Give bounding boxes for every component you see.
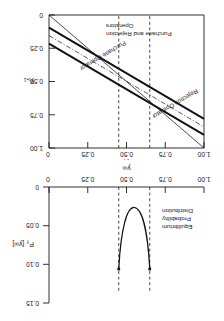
equilibrium-distribution-curve bbox=[119, 207, 150, 268]
top-x-ticks bbox=[49, 187, 204, 193]
top-y-tick-label: 0.10 bbox=[26, 261, 39, 268]
top-y-axis-title-main: P bbox=[29, 241, 34, 248]
top-x-tick-label: 1.00 bbox=[197, 176, 210, 183]
top-y-tick-label: 0.05 bbox=[26, 222, 39, 229]
bottom-x-tick-label: 0.75 bbox=[159, 151, 172, 158]
top-x-tick-label: 0.50 bbox=[120, 176, 133, 183]
bottom-x-tick-label: 1.00 bbox=[197, 151, 210, 158]
bottom-x-tick-label: 0.25 bbox=[81, 151, 94, 158]
top-annotation: Equilibrium Probability Distribution bbox=[161, 208, 193, 231]
panel-purchase-and-rejection-operators: Rejection Operator Purchase Operator 1.0… bbox=[0, 0, 224, 160]
bottom-x-tick-label: 0.50 bbox=[120, 151, 133, 158]
bottom-annotation-line-2: Operators bbox=[106, 23, 134, 30]
top-y-axis-title-tail: [y∞] bbox=[12, 240, 26, 248]
top-x-tick-label: 0.75 bbox=[159, 176, 172, 183]
bottom-x-tick-label: 0 bbox=[46, 151, 50, 158]
top-x-tick-label: 0 bbox=[46, 176, 50, 183]
series-rejection-operator bbox=[49, 44, 204, 135]
bottom-y-tick-label: 0 bbox=[39, 12, 43, 19]
bottom-x-ticks bbox=[49, 142, 204, 148]
svg-text:PY [y∞]: PY [y∞] bbox=[12, 239, 34, 248]
bottom-y-ticks bbox=[49, 15, 55, 148]
bottom-x-tick-labels: 1.00 0.75 0.50 0.25 0 bbox=[46, 151, 211, 158]
top-x-axis-title: y∞ bbox=[122, 164, 130, 172]
bottom-x-axis-title: yt bbox=[123, 158, 128, 160]
bottom-panel-svg: Rejection Operator Purchase Operator 1.0… bbox=[0, 0, 224, 160]
curve-endpoint-right bbox=[117, 268, 120, 271]
top-y-axis-title: PY [y∞] bbox=[12, 239, 34, 248]
top-annotation-line-2: Probability bbox=[161, 216, 191, 223]
bottom-y-tick-label: 1.00 bbox=[30, 145, 43, 152]
curve-endpoint-left bbox=[148, 268, 151, 271]
bottom-annotation: Purchase and Rejection Operators bbox=[105, 23, 171, 38]
top-x-tick-label: 0.25 bbox=[81, 176, 94, 183]
top-y-tick-label: 0 bbox=[35, 184, 39, 191]
bottom-y-tick-label: 0.75 bbox=[30, 112, 43, 119]
top-y-ticks bbox=[43, 187, 49, 303]
bottom-annotation-line-1: Purchase and Rejection bbox=[105, 31, 171, 38]
figure-root: 1.00 0.75 0.50 0.25 0 y∞ 0 0.05 0.10 0.1… bbox=[0, 0, 224, 321]
top-annotation-line-1: Equilibrium bbox=[162, 224, 193, 231]
panel-equilibrium-probability-distribution: 1.00 0.75 0.50 0.25 0 y∞ 0 0.05 0.10 0.1… bbox=[0, 160, 224, 321]
top-x-tick-labels: 1.00 0.75 0.50 0.25 0 bbox=[46, 176, 211, 183]
top-y-tick-label: 0.15 bbox=[26, 300, 39, 307]
bottom-y-axis-title: yt+1 bbox=[23, 77, 34, 86]
top-annotation-line-3: Distribution bbox=[161, 208, 193, 215]
bottom-y-tick-label: 0.25 bbox=[30, 45, 43, 52]
top-panel-svg: 1.00 0.75 0.50 0.25 0 y∞ 0 0.05 0.10 0.1… bbox=[0, 160, 224, 321]
